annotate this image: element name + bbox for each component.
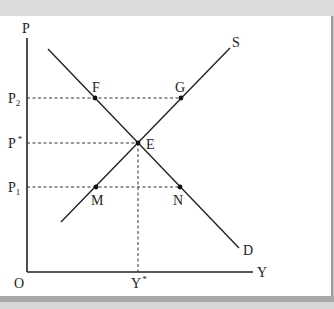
origin-label: O [14, 276, 24, 291]
point-e-label: E [146, 137, 155, 152]
supply-label: S [232, 35, 240, 50]
supply-curve [61, 48, 230, 222]
p1-label: P1 [8, 180, 20, 197]
p2-label: P2 [8, 91, 20, 108]
point-m [94, 185, 99, 190]
point-n [178, 185, 183, 190]
point-e [136, 141, 141, 146]
demand-curve [48, 49, 239, 248]
quantity-axis-label: Y [257, 265, 267, 280]
pstar-label: P* [8, 134, 23, 151]
point-f [93, 96, 98, 101]
point-g-label: G [175, 80, 185, 95]
point-n-label: N [173, 193, 183, 208]
point-f-label: F [92, 80, 100, 95]
point-m-label: M [91, 193, 104, 208]
demand-label: D [243, 243, 253, 258]
point-g [179, 96, 184, 101]
ystar-label: Y* [131, 274, 147, 291]
price-axis-label: P [22, 21, 30, 36]
supply-demand-diagram: P Y O P2 P* P1 Y* S D F G E M N [0, 0, 334, 309]
